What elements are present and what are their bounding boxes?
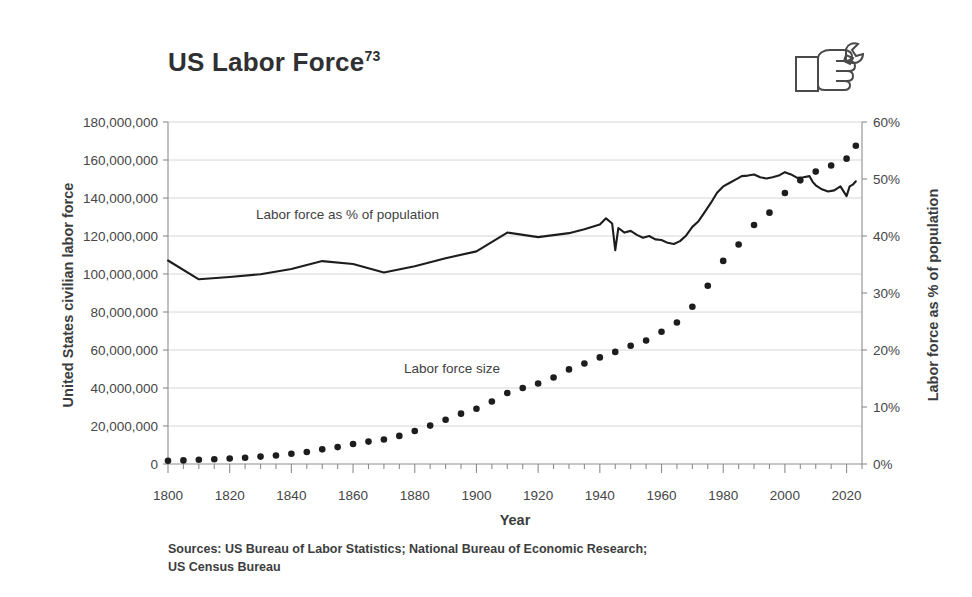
series-dots-labor-force-size: [165, 142, 859, 464]
series-dot: [581, 360, 588, 367]
series-dot: [627, 343, 634, 350]
series-dot: [674, 319, 681, 326]
series-dot: [442, 416, 449, 423]
series-dot: [843, 155, 850, 162]
series-dot: [612, 349, 619, 356]
series-dot: [519, 385, 526, 392]
series-dot: [751, 222, 758, 229]
series-dot: [504, 390, 511, 397]
series-dot: [304, 449, 311, 456]
series-dot: [196, 457, 203, 464]
series-dot: [473, 405, 480, 412]
series-dot: [350, 441, 357, 448]
series-dot: [334, 444, 341, 451]
series-dot: [396, 433, 403, 440]
series-dot: [365, 438, 372, 445]
series-dot: [288, 450, 295, 457]
series-dot: [242, 454, 249, 461]
series-dot: [550, 374, 557, 381]
series-dot: [828, 162, 835, 169]
series-dot: [489, 398, 496, 405]
series-dot: [658, 328, 665, 335]
chart-figure: US Labor Force73 United States civilian …: [0, 0, 972, 597]
plot-canvas: [0, 0, 972, 597]
series-dot: [689, 303, 696, 310]
series-dot: [165, 457, 172, 464]
series-dot: [566, 366, 573, 373]
series-dot: [720, 258, 727, 265]
series-dot: [643, 337, 650, 344]
series-dot: [211, 456, 218, 463]
series-dot: [458, 410, 465, 417]
series-dot: [797, 177, 804, 184]
series-dot: [735, 241, 742, 248]
series-dot: [180, 457, 187, 464]
series-dot: [853, 142, 860, 149]
series-dot: [782, 190, 789, 197]
series-dot: [766, 209, 773, 216]
series-dot: [427, 422, 434, 429]
series-dot: [704, 282, 711, 289]
series-dot: [273, 452, 280, 459]
series-dot: [812, 168, 819, 175]
series-dot: [597, 354, 604, 361]
series-dot: [381, 436, 388, 443]
series-dot: [257, 453, 264, 460]
series-dot: [319, 446, 326, 453]
series-dot: [226, 455, 233, 462]
series-dot: [535, 380, 542, 387]
series-dot: [411, 428, 418, 435]
